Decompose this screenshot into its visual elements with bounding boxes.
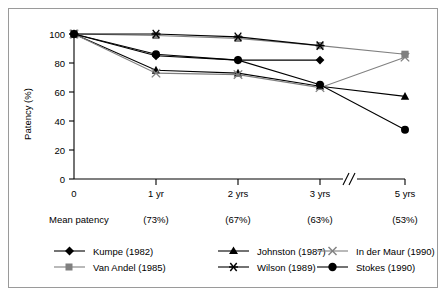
filled-diamond-icon bbox=[65, 247, 74, 256]
filled-circle-icon bbox=[328, 263, 336, 271]
filled-circle-marker bbox=[234, 56, 242, 64]
legend-label-stokes: Stokes (1990) bbox=[356, 262, 415, 273]
filled-circle-marker bbox=[401, 126, 409, 134]
series-line bbox=[74, 34, 405, 96]
mean-patency-3yrs: (63%) bbox=[307, 214, 332, 225]
legend-item-wilson[interactable]: Wilson (1989) bbox=[218, 262, 316, 273]
figure-panel: Patency (%) 100 80 60 40 20 bbox=[8, 8, 438, 288]
filled-circle-marker bbox=[70, 30, 78, 38]
y-tick-label-20: 20 bbox=[54, 145, 65, 156]
filled-triangle-icon bbox=[229, 247, 238, 255]
legend-label-in-der-maur: In der Maur (1990) bbox=[356, 246, 435, 257]
legend-item-kumpe[interactable]: Kumpe (1982) bbox=[54, 246, 153, 257]
x-tick-label-1yr: 1 yr bbox=[148, 188, 164, 199]
axis-break-slash-2 bbox=[349, 173, 355, 185]
y-tick-label-40: 40 bbox=[54, 116, 65, 127]
mean-patency-2yrs: (67%) bbox=[225, 214, 250, 225]
legend-item-johnston[interactable]: Johnston (1987) bbox=[218, 246, 326, 257]
mean-patency-1yr: (73%) bbox=[143, 214, 168, 225]
filled-square-icon bbox=[66, 264, 73, 271]
legend-item-in-der-maur[interactable]: In der Maur (1990) bbox=[317, 246, 435, 257]
legend-label-van-andel: Van Andel (1985) bbox=[93, 262, 166, 273]
mean-patency-5yrs: (53%) bbox=[392, 214, 417, 225]
series-4 bbox=[69, 30, 324, 50]
filled-diamond-marker bbox=[316, 56, 325, 65]
legend-label-johnston: Johnston (1987) bbox=[257, 246, 326, 257]
legend: Kumpe (1982) Johnston (1987) In der Maur… bbox=[54, 246, 435, 273]
y-axis-title: Patency (%) bbox=[22, 88, 33, 140]
y-tick-label-80: 80 bbox=[54, 58, 65, 69]
legend-item-van-andel[interactable]: Van Andel (1985) bbox=[54, 262, 166, 273]
filled-circle-marker bbox=[316, 81, 324, 89]
chart-svg: Patency (%) 100 80 60 40 20 bbox=[9, 9, 439, 289]
y-tick-label-60: 60 bbox=[54, 87, 65, 98]
mean-patency-label: Mean patency bbox=[49, 214, 109, 225]
patency-line-chart: Patency (%) 100 80 60 40 20 bbox=[9, 9, 439, 289]
axis-break-slash-1 bbox=[343, 173, 349, 185]
x-tick-label-5yrs: 5 yrs bbox=[395, 188, 416, 199]
series-6 bbox=[70, 30, 409, 134]
series-layer bbox=[69, 30, 409, 134]
asterisk-icon bbox=[229, 263, 238, 271]
x-tick-label-2yrs: 2 yrs bbox=[228, 188, 249, 199]
x-tick-label-0: 0 bbox=[71, 188, 76, 199]
series-line bbox=[74, 34, 405, 130]
legend-label-kumpe: Kumpe (1982) bbox=[93, 246, 153, 257]
y-tick-label-0: 0 bbox=[60, 174, 65, 185]
series-line bbox=[74, 34, 320, 60]
legend-label-wilson: Wilson (1989) bbox=[257, 262, 316, 273]
x-tick-label-3yrs: 3 yrs bbox=[310, 188, 331, 199]
y-tick-group: 100 80 60 40 20 0 bbox=[49, 29, 74, 185]
y-tick-label-100: 100 bbox=[49, 29, 65, 40]
legend-item-stokes[interactable]: Stokes (1990) bbox=[317, 262, 415, 273]
filled-circle-marker bbox=[152, 50, 160, 58]
x-tick-group: 0 1 yr 2 yrs 3 yrs 5 yrs bbox=[71, 179, 415, 199]
